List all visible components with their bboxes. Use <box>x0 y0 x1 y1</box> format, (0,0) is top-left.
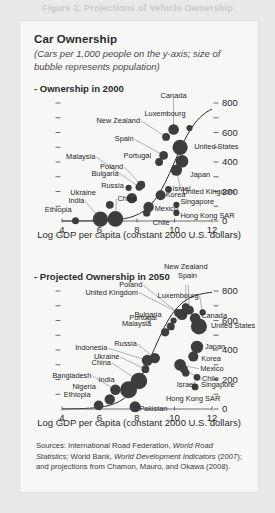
bubble-label-portugal: Portugal <box>124 152 152 160</box>
bubble-bulgaria[interactable] <box>126 185 132 191</box>
page-banner-text: Figure 2. Projections of Vehicle Ownersh… <box>0 0 275 20</box>
chart-1-plot-area: EthiopiaNigeriaBangladeshIndiaChinaPakis… <box>40 285 218 421</box>
bubble-japan[interactable] <box>191 341 203 353</box>
bubble-korea[interactable] <box>156 190 166 200</box>
bubble-spain[interactable] <box>185 306 194 315</box>
bubble-label-canada: Canada <box>161 92 187 100</box>
chart-1-y-tick-label: 400 <box>222 344 238 355</box>
bubble-label-ethiopia: Ethiopia <box>64 391 91 399</box>
figure-subtitle: (Cars per 1,000 people on the y-axis; si… <box>34 48 246 73</box>
bubble-new-zealand[interactable] <box>162 133 170 141</box>
sources-prefix: Sources: International Road Federation, <box>36 441 173 450</box>
chart-1-y-tick-label: 800 <box>222 285 238 296</box>
sources-italic-2: World Development Indicators <box>114 452 216 461</box>
bubble-ukraine[interactable] <box>106 201 114 209</box>
bubble-label-pakistan: Pakistan <box>139 405 167 413</box>
bubble-spain[interactable] <box>159 151 168 160</box>
bubble-label-spain: Spain <box>115 135 134 143</box>
bubble-label-united-states: United States <box>194 143 238 151</box>
bubble-label-united-kingdom: United Kingdom <box>85 289 138 297</box>
bubble-bangladesh[interactable] <box>110 385 120 395</box>
bubble-poland[interactable] <box>174 309 182 317</box>
chart-1-leader-line <box>120 357 145 369</box>
bubble-israel[interactable] <box>182 369 189 376</box>
bubble-label-russia: Russia <box>114 340 137 348</box>
bubble-label-bulgaria: Bulgaria <box>134 311 161 319</box>
chart-0-title: - Ownership in 2000 <box>34 83 124 94</box>
chart-1-y-tick-label: 0 <box>222 403 227 414</box>
bubble-china[interactable] <box>131 373 148 390</box>
bubble-label-chile: Chile <box>153 219 170 227</box>
bubble-label-nigeria: Nigeria <box>72 383 95 391</box>
bubble-canada[interactable] <box>168 124 179 135</box>
bubble-luxembourg[interactable] <box>186 125 192 131</box>
bubble-label-russia: Russia <box>101 182 124 190</box>
bubble-nigeria[interactable] <box>105 394 115 404</box>
bubble-malaysia[interactable] <box>161 328 169 336</box>
bubble-poland[interactable] <box>137 181 145 189</box>
bubble-label-ukraine: Ukraine <box>94 353 119 361</box>
bubble-united-states[interactable] <box>191 318 207 334</box>
chart-1-y-tick-label: 200 <box>222 374 238 385</box>
bubble-label-new-zealand: New Zealand <box>97 117 141 125</box>
bubble-label-luxembourg: Luxembourg <box>144 110 185 118</box>
bubble-label-poland: Poland <box>100 163 123 171</box>
bubble-ukraine[interactable] <box>142 365 150 373</box>
figure-root: Figure 2. Projections of Vehicle Ownersh… <box>0 0 275 513</box>
chart-0-leader-line <box>141 121 166 137</box>
bubble-label-israel: Israel <box>177 381 195 389</box>
bubble-label-mexico: Mexico <box>200 365 223 373</box>
bubble-chile[interactable] <box>143 209 150 216</box>
bubble-label-indonesia: Indonesia <box>75 344 107 352</box>
bubble-label-japan: Japan <box>190 171 210 179</box>
chart-0-y-tick-label: 200 <box>222 186 238 197</box>
bubble-ethiopia[interactable] <box>94 401 104 411</box>
bubble-russia[interactable] <box>150 353 160 363</box>
bubble-united-states[interactable] <box>173 140 188 155</box>
bubble-bulgaria[interactable] <box>171 317 177 323</box>
bubble-label-bangladesh: Bangladesh <box>52 372 91 380</box>
sources-line-3: projections from Chamon, Mauro, and Okaw… <box>51 462 230 471</box>
bubble-label-malaysia: Malaysia <box>66 153 95 161</box>
chart-ownership-2000: - Ownership in 2000 EthiopiaIndiaChinaUk… <box>20 83 258 251</box>
bubble-label-spain: Spain <box>178 272 197 280</box>
bubble-label-ukraine: Ukraine <box>70 189 95 197</box>
bubble-label-korea: Korea <box>201 355 221 363</box>
bubble-label-ethiopia: Ethiopia <box>45 206 72 214</box>
bubble-label-india: India <box>68 197 84 205</box>
chart-projected-ownership-2050: - Projected Ownership in 2050 EthiopiaNi… <box>20 271 258 439</box>
bubble-ethiopia[interactable] <box>72 217 79 224</box>
chart-1-xaxis-title: Log GDP per capita (constant 2000 U.S. d… <box>20 417 258 428</box>
bubble-label-mexico: Mexico <box>155 205 178 213</box>
sources-note: Sources: International Road Federation, … <box>36 441 244 473</box>
bubble-label-new-zealand: New Zealand <box>164 263 208 271</box>
chart-1-title: - Projected Ownership in 2050 <box>34 271 170 282</box>
page-title: Car Ownership <box>34 33 117 45</box>
chart-0-y-tick-label: 0 <box>222 215 227 226</box>
sources-mid: World Bank, <box>69 452 114 461</box>
bubble-label-china: China <box>117 195 136 203</box>
bubble-china[interactable] <box>108 211 124 227</box>
bubble-label-hong-kong-sar: Hong Kong SAR <box>166 395 220 403</box>
chart-0-xaxis-title: Log GDP per capita (constant 2000 U.S. d… <box>20 229 258 240</box>
chart-0-y-tick-label: 600 <box>222 127 238 138</box>
chart-0-plot-area: EthiopiaIndiaChinaUkraineBulgariaRussiaM… <box>40 97 218 233</box>
bubble-united-kingdom[interactable] <box>171 164 182 175</box>
chart-0-y-tick-label: 400 <box>222 156 238 167</box>
chart-0-y-tick-label: 800 <box>222 97 238 108</box>
bubble-portugal[interactable] <box>167 323 175 331</box>
bubble-label-bulgaria: Bulgaria <box>91 170 118 178</box>
bubble-label-singapore: Singapore <box>180 198 214 206</box>
bubble-label-india: India <box>99 376 115 384</box>
bubble-korea[interactable] <box>188 352 198 362</box>
bubble-label-luxembourg: Luxembourg <box>158 292 199 300</box>
figure-card: Car Ownership (Cars per 1,000 people on … <box>20 21 258 492</box>
chart-1-y-tick-label: 600 <box>222 315 238 326</box>
bubble-label-poland: Poland <box>119 281 142 289</box>
